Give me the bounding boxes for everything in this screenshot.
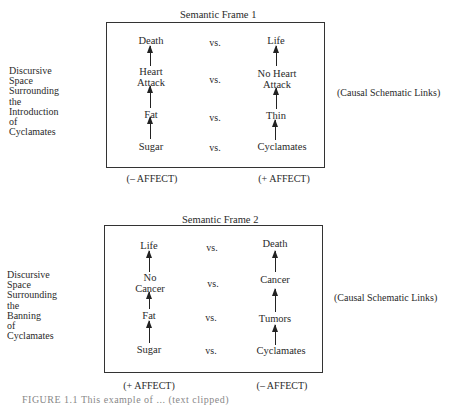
frame1-affect-right: (+ AFFECT) [258, 173, 309, 184]
arrow-up-icon [149, 321, 150, 343]
f1-vs-2: vs. [209, 74, 220, 85]
arrow-up-icon [150, 46, 151, 66]
arrow-up-icon [275, 289, 276, 312]
arrow-up-icon [150, 86, 151, 108]
f2-right-cyclamates: Cyclamates [257, 346, 306, 357]
f2-left-sugar: Sugar [137, 345, 162, 356]
node-line: No Heart [258, 69, 297, 80]
f2-vs-1: vs. [206, 242, 217, 253]
arrow-up-icon [276, 88, 277, 109]
frame2-affect-left: (+ AFFECT) [123, 380, 174, 391]
f2-right-death: Death [262, 239, 287, 250]
arrow-up-icon [275, 251, 276, 272]
f1-vs-3: vs. [209, 112, 220, 123]
frame1-title: Semantic Frame 1 [180, 9, 256, 20]
frame2-affect-right: (– AFFECT) [257, 380, 308, 391]
f1-vs-4: vs. [209, 142, 220, 153]
f2-right-cancer: Cancer [260, 275, 290, 286]
side-line: Cyclamates [9, 127, 59, 137]
node-line: Heart [137, 67, 165, 78]
frame1-side-label: Discursive Space Surrounding the Introdu… [9, 66, 59, 137]
figure-caption: FIGURE 1.1 This example of ... (text cli… [22, 394, 229, 405]
arrow-up-icon [276, 46, 277, 66]
f1-left-sugar: Sugar [139, 142, 164, 153]
side-line: Cyclamates [7, 331, 57, 341]
f2-vs-2: vs. [207, 278, 218, 289]
f2-right-tumors: Tumors [259, 314, 291, 325]
arrow-up-icon [275, 120, 276, 140]
frame2-causal-links-label: (Causal Schematic Links) [334, 292, 437, 303]
arrow-up-icon [149, 292, 150, 309]
f1-vs-1: vs. [209, 37, 220, 48]
frame1-affect-left: (– AFFECT) [127, 173, 178, 184]
f2-vs-3: vs. [205, 312, 216, 323]
arrow-up-icon [275, 325, 276, 345]
frame2-title: Semantic Frame 2 [182, 214, 258, 225]
arrow-up-icon [149, 251, 150, 272]
node-line: No [135, 273, 165, 284]
f2-vs-4: vs. [205, 345, 216, 356]
frame2-side-label: Discursive Space Surrounding the Banning… [7, 270, 57, 341]
arrow-up-icon [150, 117, 151, 139]
f1-right-cyclamates: Cyclamates [258, 142, 307, 153]
frame1-causal-links-label: (Causal Schematic Links) [337, 87, 440, 98]
